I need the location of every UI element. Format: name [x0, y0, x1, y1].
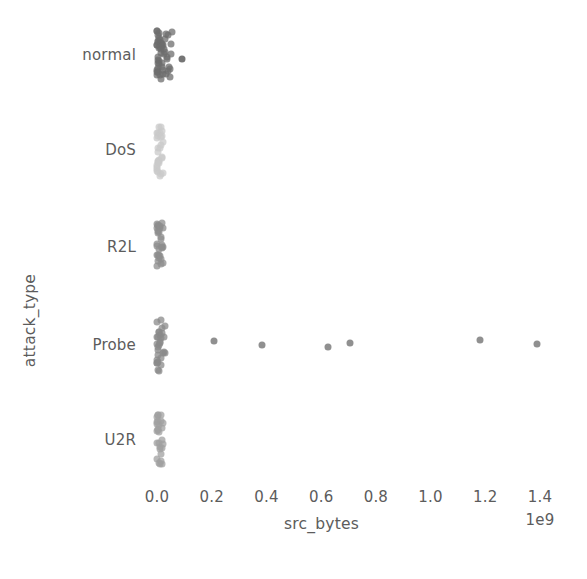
x-tick-label-1.2: 1.2: [473, 488, 497, 506]
data-point: [160, 170, 167, 177]
plot-area: [0, 0, 587, 579]
data-point: [166, 65, 173, 72]
data-point: [159, 243, 166, 250]
data-point: [168, 51, 175, 58]
x-axis-label: src_bytes: [0, 515, 587, 533]
x-tick-label-1.4: 1.4: [528, 488, 552, 506]
x-tick-label-0.2: 0.2: [199, 488, 223, 506]
x-tick-label-0.4: 0.4: [254, 488, 278, 506]
data-point: [161, 333, 168, 340]
data-point: [159, 139, 166, 146]
data-point: [157, 362, 164, 369]
data-point: [167, 73, 174, 80]
data-point: [534, 341, 541, 348]
data-point: [160, 440, 167, 447]
data-point: [476, 337, 483, 344]
data-point: [159, 419, 166, 426]
data-point: [346, 340, 353, 347]
data-point: [178, 56, 185, 63]
x-tick-label-0.8: 0.8: [364, 488, 388, 506]
x-axis-label-text: src_bytes: [284, 515, 359, 533]
data-point: [211, 337, 218, 344]
x-tick-label-1.0: 1.0: [418, 488, 442, 506]
x-tick-label-0.6: 0.6: [309, 488, 333, 506]
data-point: [160, 225, 167, 232]
data-point: [168, 29, 175, 36]
data-point: [325, 343, 332, 350]
data-point: [160, 259, 167, 266]
data-point: [167, 40, 174, 47]
x-tick-label-0.0: 0.0: [145, 488, 169, 506]
data-point: [259, 341, 266, 348]
data-point: [159, 153, 166, 160]
data-point: [158, 460, 165, 467]
data-point: [161, 323, 168, 330]
chart-figure: attack_type normalDoSR2LProbeU2R 1e9 src…: [0, 0, 587, 579]
data-point: [162, 350, 169, 357]
